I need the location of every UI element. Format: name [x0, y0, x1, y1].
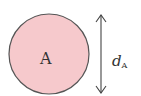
diameter-arrow-icon: [96, 15, 106, 93]
diameter-subscript: A: [122, 61, 128, 70]
diagram-canvas: [0, 0, 141, 96]
diameter-symbol: d: [112, 52, 122, 70]
diameter-label: dA: [112, 52, 127, 70]
circle-label: A: [40, 49, 52, 68]
